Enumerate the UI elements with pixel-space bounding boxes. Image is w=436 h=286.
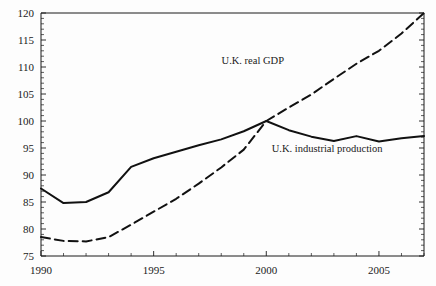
y-tick-label: 85	[23, 196, 35, 208]
x-tick-label: 2000	[255, 264, 278, 276]
y-tick-label: 75	[23, 250, 35, 262]
y-tick-label: 90	[23, 169, 35, 181]
y-tick-label: 105	[18, 88, 35, 100]
line-chart: 7580859095100105110115120 19901995200020…	[0, 0, 436, 286]
x-tick-label: 1990	[30, 264, 53, 276]
series-annotation: U.K. real GDP	[222, 55, 285, 66]
y-tick-label: 100	[18, 115, 35, 127]
series-annotation: U.K. industrial production	[272, 143, 384, 154]
chart-figure: 7580859095100105110115120 19901995200020…	[0, 0, 436, 286]
x-tick-label: 1995	[143, 264, 166, 276]
y-tick-label: 95	[23, 142, 35, 154]
y-tick-label: 110	[18, 61, 35, 73]
y-tick-label: 80	[23, 223, 35, 235]
y-tick-label: 120	[18, 7, 35, 19]
x-tick-label: 2005	[368, 264, 391, 276]
y-tick-label: 115	[18, 34, 35, 46]
